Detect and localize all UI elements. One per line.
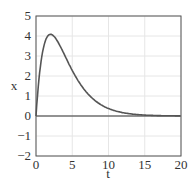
- x-tick-label: 15: [138, 157, 151, 172]
- grid: [36, 16, 181, 156]
- y-axis-label: x: [11, 78, 18, 93]
- y-tick-label: 2: [25, 68, 32, 83]
- y-tick-label: −1: [17, 128, 31, 143]
- x-tick-label: 5: [69, 157, 76, 172]
- line-chart: 05101520543210−1−2 t x: [0, 0, 196, 184]
- x-tick-label: 0: [33, 157, 40, 172]
- y-tick-label: 1: [25, 88, 32, 103]
- y-tick-label: 0: [25, 108, 32, 123]
- y-tick-label: 5: [25, 8, 32, 23]
- y-tick-label: 4: [25, 28, 32, 43]
- tick-labels: 05101520543210−1−2: [17, 8, 187, 172]
- x-tick-label: 20: [175, 157, 188, 172]
- y-tick-label: 3: [25, 48, 32, 63]
- x-axis-label: t: [106, 166, 110, 181]
- y-tick-label: −2: [17, 148, 31, 163]
